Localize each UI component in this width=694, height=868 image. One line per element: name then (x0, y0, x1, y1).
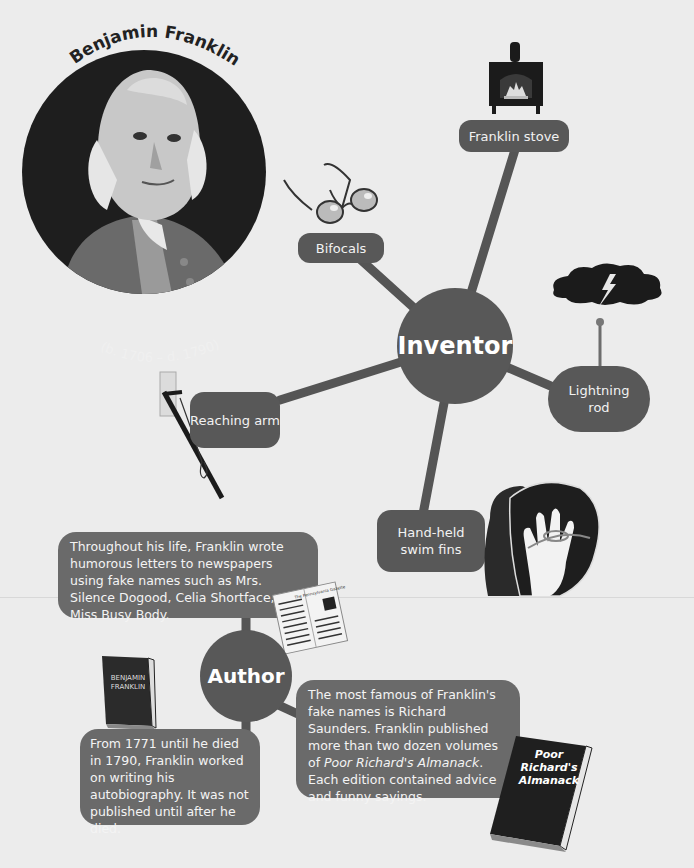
swim-fin-hand-icon (480, 478, 610, 598)
portrait-name-arc: Benjamin Franklin (0, 0, 300, 90)
author-hub: Author (200, 630, 292, 722)
inventor-item-swim-fins: Hand-held swim fins (377, 510, 485, 572)
stove-icon (486, 40, 546, 116)
newspaper-icon: The Pennsylvania Gazette (270, 578, 350, 658)
author-hub-label: Author (207, 668, 284, 685)
svg-text:(b. 1706 – d. 1790): (b. 1706 – d. 1790) (99, 337, 222, 366)
book-cover-title: BENJAMIN FRANKLIN (106, 674, 150, 692)
storm-cloud-lightning-icon (548, 260, 668, 316)
inventor-item-lightning-rod: Lightning rod (548, 366, 650, 432)
author-box-autobiography: From 1771 until he died in 1790, Frankli… (80, 729, 260, 825)
author-autobiography-text: From 1771 until he died in 1790, Frankli… (90, 736, 249, 836)
franklin-stove-label: Franklin stove (469, 128, 560, 145)
portrait-dates: (b. 1706 – d. 1790) (99, 337, 222, 366)
reaching-arm-label: Reaching arm (190, 412, 280, 429)
portrait-name: Benjamin Franklin (66, 21, 244, 70)
svg-text:Benjamin Franklin: Benjamin Franklin (66, 21, 244, 70)
almanack-cover-title: Poor Richard's Almanack (514, 748, 584, 787)
author-fake-names-text: Throughout his life, Franklin wrote humo… (70, 539, 302, 622)
book-icon: BENJAMIN FRANKLIN (96, 652, 160, 732)
inventor-item-bifocals: Bifocals (298, 233, 384, 263)
lightning-rod-label: Lightning rod (564, 382, 634, 416)
inventor-hub-label: Inventor (398, 338, 513, 355)
eyeglasses-icon (282, 160, 392, 230)
inventor-hub: Inventor (397, 288, 513, 404)
bifocals-label: Bifocals (316, 240, 367, 257)
inventor-item-franklin-stove: Franklin stove (459, 120, 569, 152)
poor-richard-title: Poor Richard's Almanack (324, 755, 479, 770)
inventor-item-reaching-arm: Reaching arm (190, 392, 280, 448)
almanack-book-icon: Poor Richard's Almanack (486, 730, 596, 860)
swim-fins-label: Hand-held swim fins (395, 524, 467, 558)
